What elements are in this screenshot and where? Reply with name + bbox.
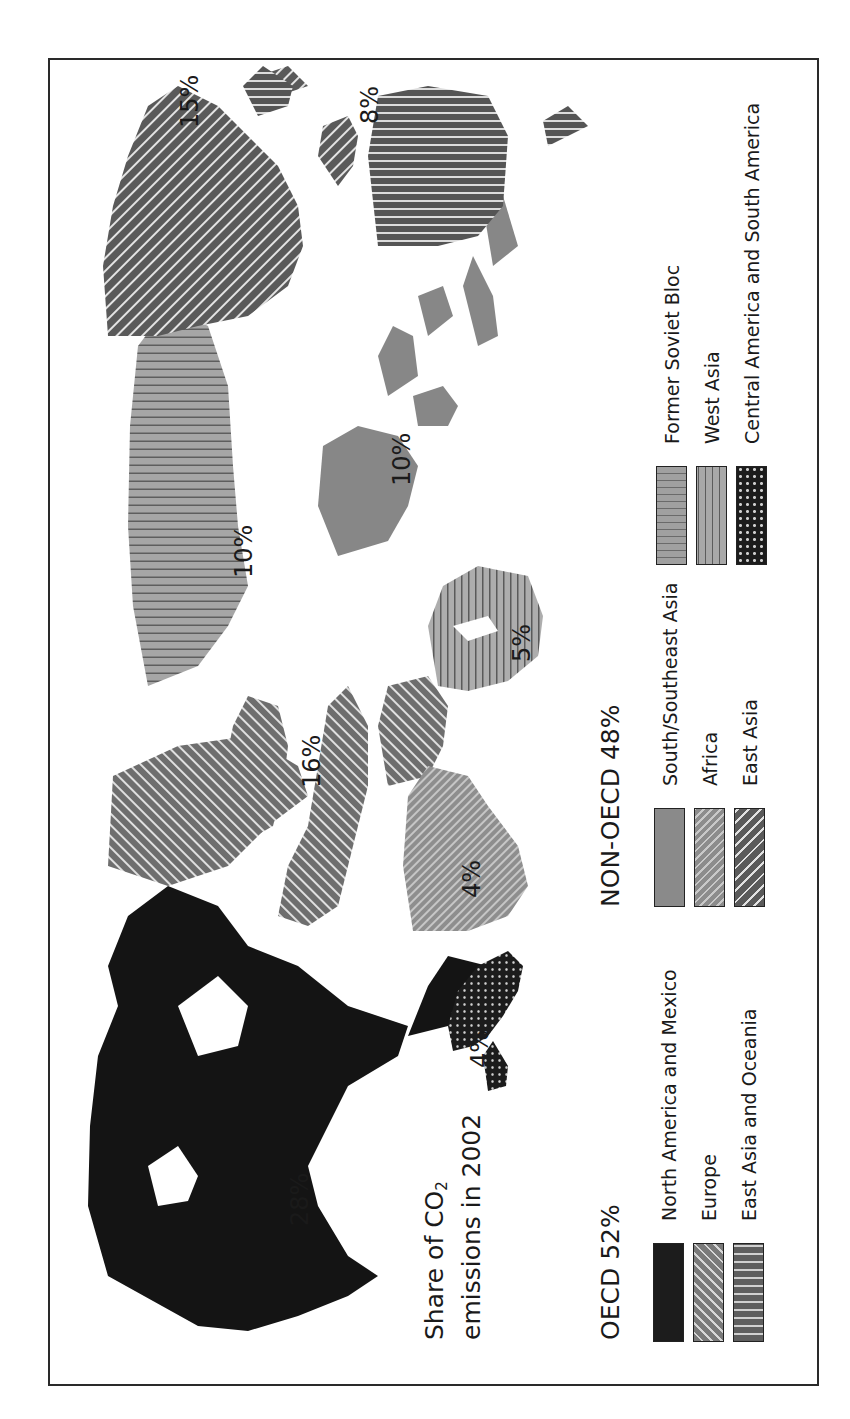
legend-item-north-america: North America and Mexico bbox=[652, 969, 685, 1342]
region-south-southeast-asia bbox=[318, 196, 518, 556]
region-africa bbox=[403, 766, 528, 931]
swatch-central-south-america bbox=[736, 466, 767, 565]
legend-item-former-soviet-bloc: Former Soviet Bloc bbox=[655, 265, 688, 565]
label-south-southeast-asia-share: 10% bbox=[390, 433, 414, 486]
region-former-soviet-bloc bbox=[128, 306, 248, 686]
label-south-america-share: 4% bbox=[468, 1030, 492, 1068]
legend-item-west-asia: West Asia bbox=[695, 351, 728, 565]
swatch-europe bbox=[693, 1243, 724, 1342]
legend-item-east-asia: East Asia bbox=[733, 699, 766, 907]
legend-item-central-south-america: Central America and South America bbox=[735, 103, 768, 565]
map-figure: 28% 4% 4% 16% 5% 10% 10% 15% 8% Share of… bbox=[48, 58, 819, 1386]
label-africa-share: 4% bbox=[460, 860, 484, 898]
region-east-asia bbox=[103, 66, 358, 336]
swatch-north-america bbox=[653, 1243, 684, 1342]
swatch-east-asia bbox=[734, 808, 765, 907]
label-east-asia-share: 15% bbox=[178, 75, 202, 128]
label-west-asia-share: 5% bbox=[510, 624, 534, 662]
legend-item-east-asia-oceania: East Asia and Oceania bbox=[732, 1009, 765, 1342]
region-europe bbox=[108, 676, 448, 926]
swatch-former-soviet-bloc bbox=[656, 466, 687, 565]
figure-title: Share of CO2 emissions in 2002 bbox=[420, 1114, 487, 1340]
label-north-america-share: 28% bbox=[288, 1173, 312, 1226]
legend-heading-oecd: OECD 52% bbox=[598, 1204, 623, 1340]
label-east-asia-oceania-share: 8% bbox=[358, 86, 382, 124]
label-former-soviet-bloc-share: 10% bbox=[232, 525, 256, 578]
legend-item-europe: Europe bbox=[692, 1154, 725, 1342]
swatch-west-asia bbox=[696, 466, 727, 565]
legend-item-south-southeast-asia: South/Southeast Asia bbox=[653, 583, 686, 907]
swatch-east-asia-oceania bbox=[733, 1243, 764, 1342]
swatch-south-southeast-asia bbox=[654, 808, 685, 907]
legend-heading-non-oecd: NON-OECD 48% bbox=[598, 705, 623, 908]
legend-item-africa: Africa bbox=[693, 732, 726, 907]
label-europe-share: 16% bbox=[300, 735, 324, 788]
swatch-africa bbox=[694, 808, 725, 907]
